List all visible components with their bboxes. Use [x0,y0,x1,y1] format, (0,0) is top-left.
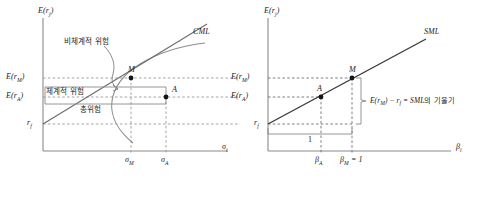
sml-chart-panel: E(rj) E(rM) E(rA) rf βA βM = 1 βi A M S [246,0,492,197]
sml-ytick-era-pre: E( [231,91,239,100]
sml-slope-mid: ) − [385,96,397,105]
cml-ytick-rf-sub: f [30,123,32,129]
cml-ytick-era: E(rA) [6,92,23,102]
cml-xtick-sigma-m: σM [125,156,134,166]
cml-point-a-label: A [172,86,177,94]
cml-point-a-marker [164,95,169,100]
cml-total-risk-label: 총위험 [80,106,101,114]
sml-point-a-marker [319,95,324,100]
sml-xtick-beta-m-eq: = 1 [349,155,363,164]
cml-unsystematic-risk-label: 비체계적 위험 [64,38,109,46]
cml-y-axis-title-paren-close: ) [51,6,54,15]
sml-ytick-rf-sub: f [257,123,259,129]
figure-root: E(rj) E(rM) E(rA) rf σM σA σi M A CML [0,0,492,197]
cml-x-axis-title-sub: i [226,147,228,153]
sml-ytick-rf: rf [254,119,259,129]
cml-ytick-era-post: ) [21,91,24,100]
sml-line [268,39,426,124]
cml-ytick-erm-post: ) [22,72,25,81]
sml-slope-ko: 의 기울기 [424,96,455,105]
cml-xtick-sigma-a: σA [161,156,169,166]
sml-xtick-beta-a: βA [315,156,323,166]
sml-xtick-beta-m: βM = 1 [340,156,363,166]
sml-slope-sml: SML [410,96,424,105]
cml-ytick-erm-pre: E( [6,72,14,81]
sml-x-axis-title-sub: i [460,147,462,153]
sml-point-a-label: A [317,85,322,93]
cml-efficient-frontier-curve [112,43,205,143]
cml-systematic-risk-label: 체계적 위험 [46,88,84,96]
cml-ytick-rf: rf [27,119,32,129]
sml-ytick-era: E(rA) [231,92,248,102]
sml-slope-eq: = [401,96,410,105]
cml-ytick-erm: E(rM) [6,73,25,83]
cml-point-m-marker [129,76,134,81]
sml-line-label: SML [424,28,439,36]
sml-ytick-era-post: ) [246,91,249,100]
cml-xtick-sigma-m-sub: M [129,160,134,166]
sml-y-axis-title: E(rj) [264,7,279,17]
sml-y-axis-title-paren-close: ) [277,6,280,15]
sml-x-axis-title: βi [456,143,462,153]
sml-xtick-beta-a-sub: A [319,160,323,166]
sml-point-m-label: M [349,66,356,74]
cml-ytick-era-pre: E( [6,91,14,100]
cml-x-axis-title: σi [222,143,228,153]
sml-ytick-erm-pre: E( [231,72,239,81]
cml-chart-panel: E(rj) E(rM) E(rA) rf σM σA σi M A CML [0,0,246,197]
sml-rise-bracket [356,78,366,124]
sml-run-bracket [268,128,352,134]
sml-slope-annotation: E(rM) − rf = SML의 기울기 [370,97,455,107]
cml-y-axis-title: E(rj) [38,7,53,17]
sml-ytick-erm: E(rM) [231,73,250,83]
sml-run-label: 1 [308,136,312,144]
cml-point-m-label: M [128,66,135,74]
sml-ytick-erm-post: ) [247,72,250,81]
cml-xtick-sigma-a-sub: A [165,160,169,166]
sml-point-m-marker [350,76,355,81]
cml-line-label: CML [193,28,210,36]
